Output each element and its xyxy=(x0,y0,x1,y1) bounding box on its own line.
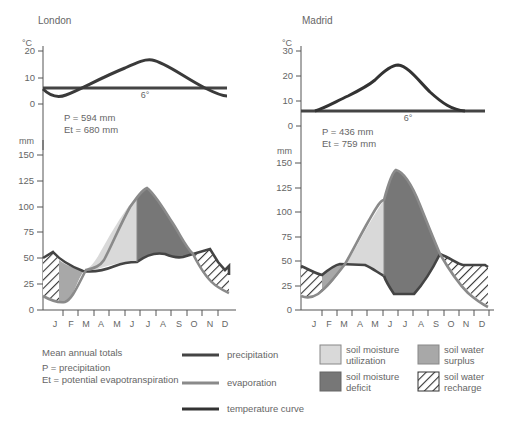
london-recharge-area-jan xyxy=(43,252,59,302)
london-month-label: J xyxy=(53,319,58,329)
legend-evaporation-label: evaporation xyxy=(227,377,277,388)
madrid-month-label: J xyxy=(312,319,317,329)
madrid-month-label: M xyxy=(371,319,379,329)
legend-deficit-label-1: soil moisture xyxy=(346,371,399,382)
london-threshold-label: 6° xyxy=(141,90,150,100)
madrid-mm-tick: 75 xyxy=(281,231,292,242)
london-month-label: A xyxy=(160,319,166,329)
london-mm-tick: 25 xyxy=(23,278,34,289)
london-mm-tick: 0 xyxy=(29,304,34,315)
legend-surplus-swatch xyxy=(418,345,439,364)
madrid-month-label: J xyxy=(403,319,408,329)
madrid-mm-tick: 25 xyxy=(281,280,292,291)
london-et-total: Et = 680 mm xyxy=(64,124,118,135)
madrid-et-total: Et = 759 mm xyxy=(322,138,376,149)
legend-note-et: Et = potential evapotranspiration xyxy=(42,374,179,385)
legend-notes-title: Mean annual totals xyxy=(42,347,123,358)
madrid-mm-tick: 50 xyxy=(281,255,292,266)
london-mm-unit: mm xyxy=(19,136,34,146)
london-mm-tick: 150 xyxy=(18,149,34,160)
legend-utilization-label-2: utilization xyxy=(346,355,386,366)
london-month-label: M xyxy=(113,319,121,329)
madrid-mm-tick: 0 xyxy=(287,304,292,315)
london-month-label: A xyxy=(98,319,104,329)
madrid-temp-tick: 10 xyxy=(282,95,293,106)
madrid-mm-tick: 125 xyxy=(276,182,292,193)
legend-surplus-label-1: soil water xyxy=(444,344,484,355)
london-temp-tick: 0 xyxy=(30,98,35,109)
madrid-mm-unit: mm xyxy=(277,146,292,156)
madrid-temp-tick: 20 xyxy=(282,70,293,81)
london-temp-tick: 10 xyxy=(24,72,35,83)
madrid-mm-tick: 100 xyxy=(276,206,292,217)
london-title: London xyxy=(38,15,71,26)
legend-utilization-label-1: soil moisture xyxy=(346,344,399,355)
madrid-month-label: F xyxy=(326,319,332,329)
climate-water-balance-figure: London °C 20 10 0 6° P = 594 mm Et = 680… xyxy=(0,0,505,429)
madrid-month-label: A xyxy=(418,319,424,329)
london-deficit-area xyxy=(137,188,193,262)
london-temperature-curve xyxy=(43,60,227,97)
london-temperature-plot: °C 20 10 0 6° P = 594 mm Et = 680 mm xyxy=(22,38,227,150)
legend-deficit-swatch xyxy=(320,372,341,391)
madrid-month-label: J xyxy=(388,319,393,329)
madrid-threshold-label: 6° xyxy=(404,113,413,123)
madrid-month-label: A xyxy=(357,319,363,329)
madrid-water-balance-plot: mm 150 125 100 75 50 25 0 xyxy=(276,146,494,329)
london-p-total: P = 594 mm xyxy=(64,112,115,123)
london-month-label: N xyxy=(207,319,214,329)
legend-recharge-swatch xyxy=(418,372,439,391)
london-month-label: D xyxy=(222,319,229,329)
madrid-month-label: D xyxy=(479,319,486,329)
london-recharge-area-autumn xyxy=(193,249,229,293)
madrid-month-label: O xyxy=(447,319,454,329)
london-month-label: O xyxy=(190,319,197,329)
london-mm-tick: 75 xyxy=(23,226,34,237)
legend-surplus-label-2: surplus xyxy=(444,355,475,366)
london-chart: London °C 20 10 0 6° P = 594 mm Et = 680… xyxy=(18,15,236,329)
madrid-p-total: P = 436 mm xyxy=(322,126,373,137)
london-mm-tick: 100 xyxy=(18,201,34,212)
legend-utilization-swatch xyxy=(320,345,341,364)
london-month-label: M xyxy=(82,319,90,329)
london-mm-tick: 50 xyxy=(23,252,34,263)
madrid-month-label: N xyxy=(463,319,470,329)
legend-temperature-label: temperature curve xyxy=(227,403,304,414)
london-water-balance-plot: mm 150 125 100 75 50 25 0 xyxy=(18,136,236,329)
legend-recharge-label-1: soil water xyxy=(444,371,484,382)
london-month-label: J xyxy=(146,319,151,329)
madrid-mm-tick: 150 xyxy=(276,157,292,168)
madrid-chart: Madrid °C 30 20 10 0 6° P = 436 mm Et = … xyxy=(276,15,494,329)
legend-note-p: P = precipitation xyxy=(42,362,110,373)
madrid-temperature-curve xyxy=(315,65,465,111)
legend-deficit-label-2: deficit xyxy=(346,382,371,393)
legend-recharge-label-2: recharge xyxy=(444,382,482,393)
madrid-month-label: S xyxy=(433,319,439,329)
madrid-month-label: M xyxy=(340,319,348,329)
madrid-temp-tick: 30 xyxy=(282,45,293,56)
london-mm-tick: 125 xyxy=(18,175,34,186)
london-month-label: F xyxy=(68,319,74,329)
legend-precipitation-label: precipitation xyxy=(227,349,278,360)
london-month-label: J xyxy=(130,319,135,329)
london-temp-tick: 20 xyxy=(24,45,35,56)
london-month-label: S xyxy=(176,319,182,329)
legend: Mean annual totals P = precipitation Et … xyxy=(42,344,484,414)
madrid-title: Madrid xyxy=(302,15,333,26)
madrid-temperature-plot: °C 30 20 10 0 6° P = 436 mm Et = 759 mm xyxy=(282,38,485,150)
madrid-recharge-area-autumn xyxy=(440,254,488,305)
madrid-temp-tick: 0 xyxy=(288,120,293,131)
